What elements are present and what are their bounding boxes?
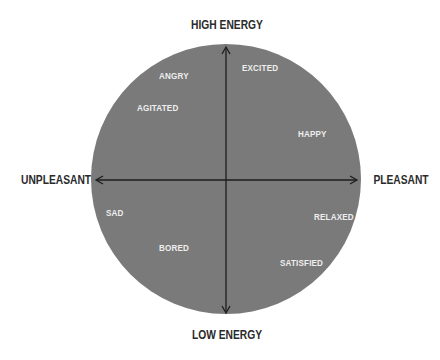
axis-label-low-energy: LOW ENERGY (190, 328, 264, 342)
emotion-bored: BORED (159, 242, 189, 253)
axis-label-high-energy: HIGH ENERGY (190, 18, 264, 32)
emotion-angry: ANGRY (159, 70, 189, 81)
emotion-satisfied: SATISFIED (280, 257, 323, 268)
emotion-relaxed: RELAXED (314, 211, 354, 222)
axis-label-pleasant: PLEASANT (372, 173, 429, 187)
emotion-sad: SAD (106, 207, 124, 218)
mood-meter-diagram: HIGH ENERGY LOW ENERGY UNPLEASANT PLEASA… (0, 0, 440, 360)
emotion-happy: HAPPY (298, 128, 327, 139)
emotion-excited: EXCITED (242, 62, 278, 73)
emotion-agitated: AGITATED (137, 102, 178, 113)
axis-label-unpleasant: UNPLEASANT (21, 173, 85, 187)
